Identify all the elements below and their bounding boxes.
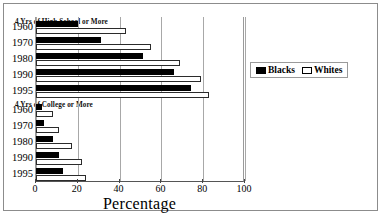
bar-group-row: 1970 — [36, 36, 243, 52]
bar-whites — [36, 92, 209, 98]
bar-blacks — [36, 69, 174, 75]
bar-group-row: 1970 — [36, 119, 243, 135]
legend-label-blacks: Blacks — [268, 65, 295, 75]
bar-blacks — [36, 37, 101, 43]
year-label: 1960 — [12, 21, 33, 32]
bar-whites — [36, 127, 59, 133]
bar-whites — [36, 44, 151, 50]
x-tick-label: 40 — [114, 183, 124, 194]
bar-group-row: 1995 — [36, 84, 243, 100]
legend-label-whites: Whites — [314, 65, 343, 75]
legend-item-blacks: Blacks — [256, 65, 295, 75]
legend-swatch-whites-icon — [302, 67, 312, 74]
year-label: 1960 — [12, 104, 33, 115]
bar-group-row: 1990 — [36, 151, 243, 167]
bar-blacks — [36, 21, 78, 27]
bar-whites — [36, 28, 126, 34]
bar-whites — [36, 143, 72, 149]
x-tick-label: 20 — [72, 183, 82, 194]
bar-blacks — [36, 104, 42, 110]
bar-group-row: 1980 — [36, 135, 243, 151]
year-label: 1990 — [12, 152, 33, 163]
x-tick-label: 0 — [33, 183, 38, 194]
year-label: 1995 — [12, 85, 33, 96]
bar-blacks — [36, 85, 191, 91]
legend-item-whites: Whites — [302, 65, 343, 75]
gridline-100 — [245, 17, 246, 181]
chart-frame: 4 Yrs of High School or More 4 Yrs of Co… — [3, 3, 378, 211]
year-label: 1980 — [12, 136, 33, 147]
x-tick-label: 100 — [237, 183, 252, 194]
bar-group-row: 1960 — [36, 103, 243, 119]
bar-group-row: 1995 — [36, 167, 243, 183]
bar-whites — [36, 76, 201, 82]
legend-swatch-blacks-icon — [256, 67, 266, 74]
year-label: 1995 — [12, 168, 33, 179]
bar-blacks — [36, 152, 59, 158]
bar-blacks — [36, 168, 63, 174]
bar-blacks — [36, 53, 143, 59]
bar-group-row: 1960 — [36, 20, 243, 36]
chart-legend: Blacks Whites — [250, 62, 348, 78]
x-tick-label: 60 — [155, 183, 165, 194]
bar-whites — [36, 111, 53, 117]
bar-whites — [36, 175, 86, 181]
bar-blacks — [36, 120, 44, 126]
year-label: 1970 — [12, 120, 33, 131]
plot-area: 1960197019801990199519601970198019901995 — [35, 17, 244, 182]
year-label: 1990 — [12, 69, 33, 80]
bar-group-row: 1980 — [36, 52, 243, 68]
bar-group-row: 1990 — [36, 68, 243, 84]
bar-whites — [36, 159, 82, 165]
bar-whites — [36, 60, 180, 66]
year-label: 1980 — [12, 53, 33, 64]
bar-blacks — [36, 136, 53, 142]
year-label: 1970 — [12, 37, 33, 48]
x-tick-label: 80 — [197, 183, 207, 194]
x-axis-title: Percentage — [35, 195, 244, 213]
